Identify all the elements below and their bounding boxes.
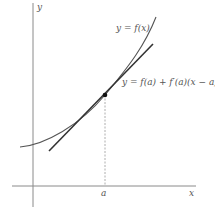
y-axis-label: y bbox=[36, 2, 43, 12]
tangent-label: y = f(a) + f′(a)(x − a) bbox=[121, 77, 215, 87]
a-marker-label: a bbox=[101, 188, 106, 198]
tangent-line bbox=[49, 44, 153, 151]
curve-label: y = f(x) bbox=[115, 23, 150, 33]
tangent-diagram: y x a y = f(x) y = f(a) + f′(a)(x − a) bbox=[0, 0, 215, 220]
tangent-point bbox=[103, 93, 108, 98]
x-axis-label: x bbox=[189, 188, 194, 198]
